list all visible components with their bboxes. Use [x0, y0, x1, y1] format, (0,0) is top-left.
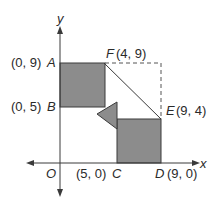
origin-label: O	[46, 166, 56, 181]
point-e-coord: (9, 4)	[176, 103, 206, 118]
point-a-label: A	[46, 55, 56, 70]
point-b-coord: (0, 5)	[11, 99, 41, 114]
point-f-label: F	[106, 46, 115, 61]
point-c-coord: (5, 0)	[76, 166, 106, 181]
x-axis-label: x	[199, 156, 207, 171]
point-c-label: C	[112, 166, 122, 181]
point-d-label: D	[155, 166, 164, 181]
point-f-coord: (4, 9)	[116, 46, 146, 61]
point-b-label: B	[47, 99, 56, 114]
point-a-coord: (0, 9)	[11, 55, 41, 70]
lower-square	[117, 119, 161, 163]
point-e-label: E	[166, 103, 175, 118]
coordinate-diagram: y x O (0, 9) A (0, 5) B F (4, 9) E (9, 4…	[0, 0, 224, 205]
upper-square	[60, 63, 105, 107]
y-axis-label: y	[56, 11, 65, 26]
point-d-coord: (9, 0)	[167, 166, 197, 181]
